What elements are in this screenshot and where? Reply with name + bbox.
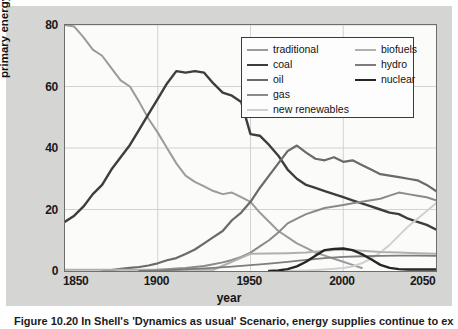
y-tick-label: 60 — [30, 80, 58, 94]
y-tick-label: 80 — [30, 18, 58, 32]
legend-swatch-icon — [247, 94, 268, 96]
legend-item: biofuels — [355, 42, 417, 57]
legend-item: coal — [247, 57, 349, 72]
legend-item: hydro — [355, 57, 417, 72]
y-tick-label: 40 — [30, 141, 58, 155]
legend-label: biofuels — [381, 44, 417, 55]
legend-label: new renewables — [273, 104, 349, 115]
legend-item: nuclear — [355, 72, 417, 87]
legend-swatch-icon — [355, 49, 376, 51]
legend-label: coal — [273, 59, 292, 70]
figure-container: primary energy share/% 020406080 1850190… — [0, 0, 458, 329]
legend-item: oil — [247, 72, 349, 87]
x-tick-label: 1950 — [237, 274, 263, 288]
x-tick-label: 2000 — [329, 274, 355, 288]
series-line-nuclear — [269, 249, 436, 271]
legend-item: new renewables — [247, 102, 349, 117]
legend-label: gas — [273, 89, 290, 100]
legend-column-left: traditionalcoaloilgasnew renewables — [247, 42, 349, 117]
y-tick-label: 0 — [30, 264, 58, 278]
x-tick-label: 2050 — [410, 274, 436, 288]
legend-swatch-icon — [355, 64, 376, 66]
legend-label: oil — [273, 74, 284, 85]
x-axis-label: year — [0, 291, 458, 305]
legend-swatch-icon — [247, 79, 268, 81]
y-tick-label: 20 — [30, 203, 58, 217]
legend-swatch-icon — [355, 79, 376, 81]
x-tick-label: 1900 — [144, 274, 170, 288]
legend-swatch-icon — [247, 109, 268, 111]
legend-column-right: biofuelshydronuclear — [355, 42, 417, 117]
legend-label: hydro — [381, 59, 407, 70]
legend-swatch-icon — [247, 49, 268, 51]
legend-item: gas — [247, 87, 349, 102]
chart-legend: traditionalcoaloilgasnew renewables biof… — [241, 37, 414, 118]
legend-label: traditional — [273, 44, 319, 55]
legend-label: nuclear — [381, 74, 415, 85]
legend-swatch-icon — [247, 64, 268, 66]
y-axis-label: primary energy share/% — [0, 0, 10, 78]
legend-item: traditional — [247, 42, 349, 57]
x-tick-label: 1850 — [63, 274, 89, 288]
series-line-gas — [139, 193, 436, 271]
figure-caption: Figure 10.20 In Shell's 'Dynamics as usu… — [14, 315, 454, 327]
